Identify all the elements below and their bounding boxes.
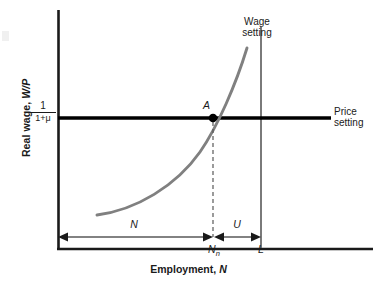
wage-setting-label: Wage setting bbox=[226, 16, 288, 38]
y-axis-title-symbol: W/P bbox=[20, 79, 32, 99]
diagram-canvas bbox=[0, 0, 377, 287]
natural-employment-subscript: n bbox=[216, 249, 220, 258]
equilibrium-point-label: A bbox=[203, 100, 210, 112]
price-setting-label-line1: Price bbox=[334, 106, 377, 117]
equilibrium-point-marker bbox=[209, 114, 218, 123]
unemployment-span-label: U bbox=[228, 219, 246, 231]
fraction-numerator: 1 bbox=[30, 101, 56, 112]
wage-setting-label-line1: Wage bbox=[226, 16, 288, 27]
price-setting-label-line2: setting bbox=[334, 117, 377, 128]
wage-setting-curve bbox=[97, 48, 247, 215]
natural-employment-symbol: N bbox=[208, 243, 216, 255]
unemployment-span-arrow bbox=[214, 233, 261, 242]
x-axis-title-symbol: N bbox=[219, 263, 227, 275]
y-axis-tick-label: 1 1+μ bbox=[30, 101, 56, 123]
x-axis-title: Employment, N bbox=[0, 264, 377, 276]
natural-employment-tick-label: Nn bbox=[203, 244, 225, 258]
wage-setting-label-line2: setting bbox=[226, 27, 288, 38]
employment-span-arrow bbox=[58, 233, 213, 242]
fraction-denominator: 1+μ bbox=[30, 113, 56, 123]
employment-span-label: N bbox=[125, 219, 143, 231]
labor-force-tick-label: L bbox=[252, 244, 270, 256]
figure-container: Real wage, W/P Employment, N 1 1+μ Wage … bbox=[0, 0, 377, 287]
price-setting-label: Price setting bbox=[334, 106, 377, 128]
x-axis-title-prefix: Employment, bbox=[150, 263, 219, 275]
